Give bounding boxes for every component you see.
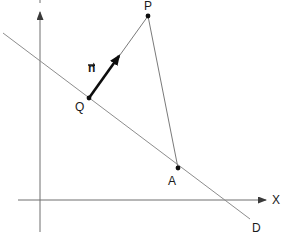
x-axis-label: X bbox=[272, 194, 280, 206]
vector-label-wrap: n bbox=[88, 62, 95, 74]
point-label-a: A bbox=[168, 175, 176, 187]
point-label-p: P bbox=[144, 0, 152, 12]
point-label-q: Q bbox=[75, 101, 84, 113]
line-d-label: D bbox=[252, 222, 261, 234]
vector-overbar-arrow-icon bbox=[88, 62, 95, 68]
geometry-diagram: P Q A X D n bbox=[0, 0, 292, 248]
point-a-dot bbox=[176, 166, 181, 171]
point-p-dot bbox=[146, 14, 151, 19]
diagram-canvas bbox=[0, 0, 292, 248]
normal-vector-label: n bbox=[88, 62, 95, 74]
point-q-dot bbox=[87, 96, 92, 101]
